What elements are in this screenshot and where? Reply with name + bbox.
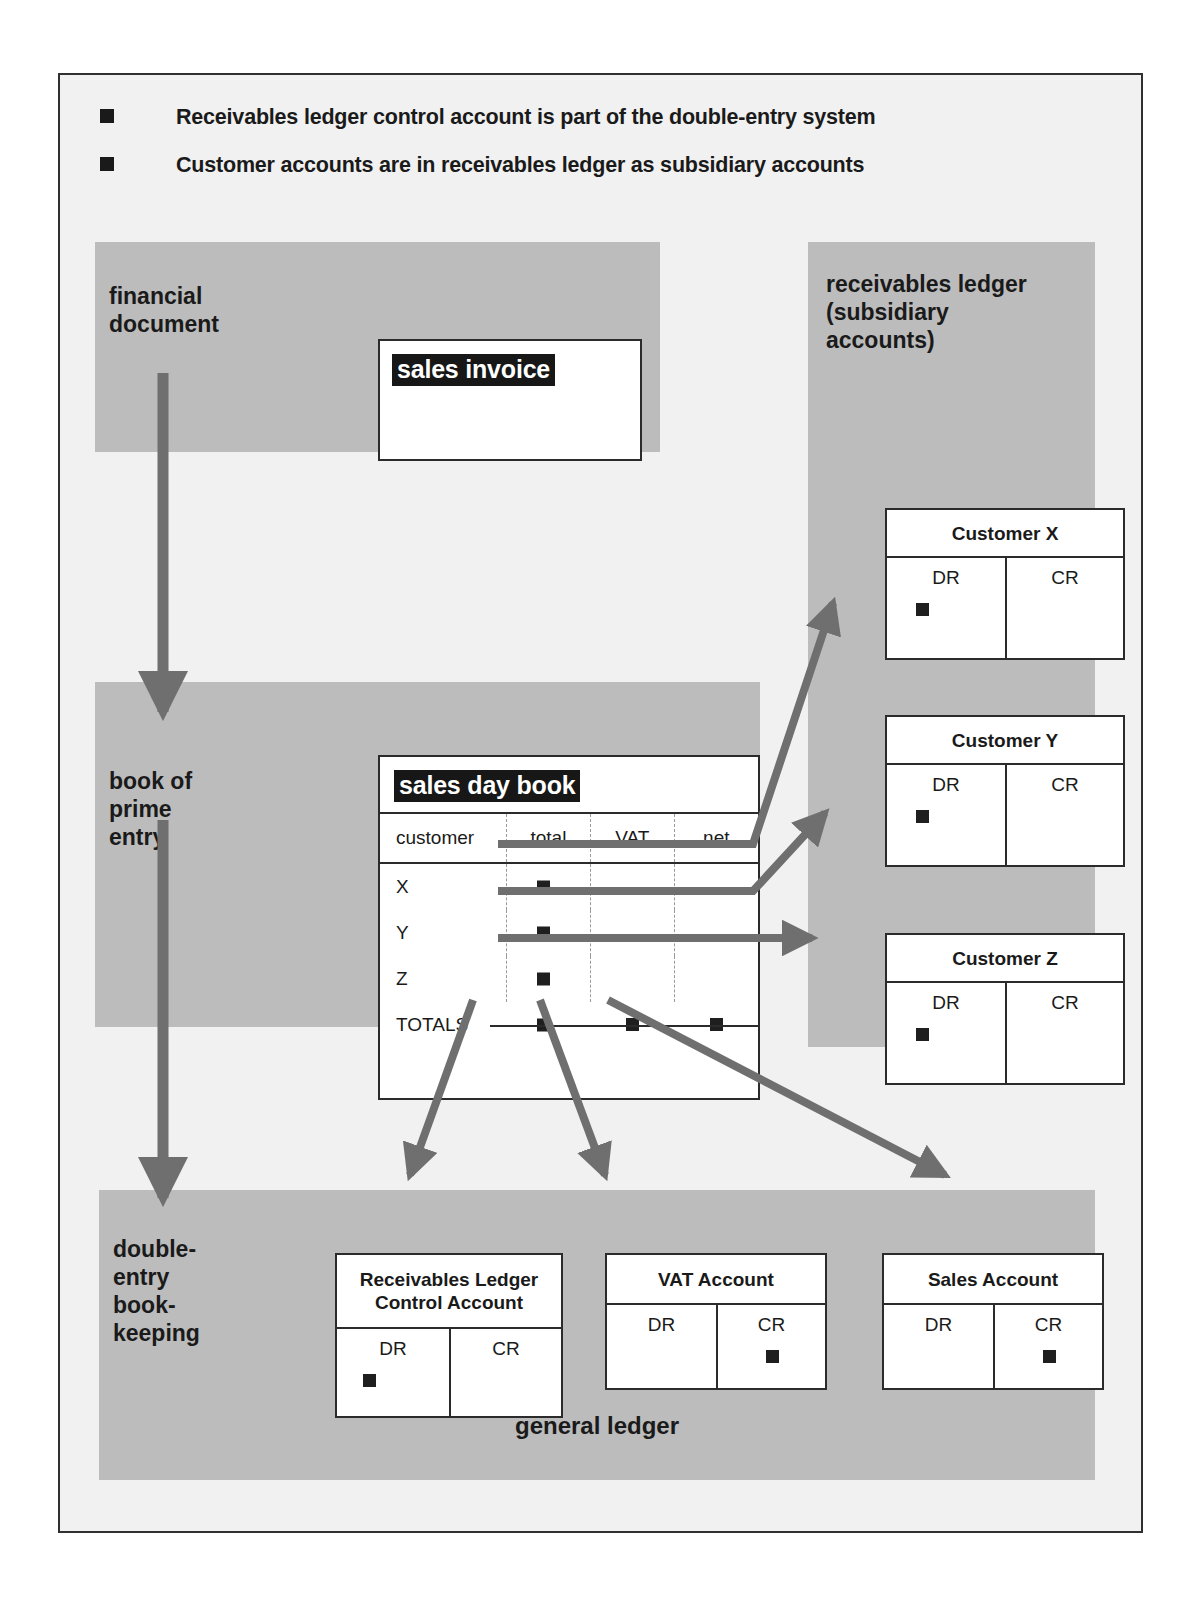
t-account-body: DR CR <box>887 558 1123 658</box>
square-bullet-icon <box>100 109 114 123</box>
cell-total-y <box>507 910 591 956</box>
cell-total-z <box>507 956 591 1002</box>
cell-net-z <box>674 956 758 1002</box>
band-receivables-ledger-label: receivables ledger (subsidiary accounts) <box>826 270 1027 354</box>
entry-mark-icon <box>766 1350 779 1363</box>
t-account-receivables-ledger-control: Receivables Ledger Control Account DR CR <box>335 1253 563 1418</box>
column-header-customer: customer <box>380 813 507 863</box>
t-account-body: DR CR <box>337 1329 561 1416</box>
t-account-cr-column: CR <box>716 1305 825 1388</box>
sales-invoice-document: sales invoice <box>378 339 642 461</box>
slide-frame: Receivables ledger control account is pa… <box>58 73 1143 1533</box>
t-account-vat: VAT Account DR CR <box>605 1253 827 1390</box>
sales-day-book-table: customer total VAT net X Y <box>380 812 758 1048</box>
t-account-customer-x-title: Customer X <box>887 510 1123 558</box>
t-account-dr-column: DR <box>337 1329 449 1416</box>
cr-label: CR <box>451 1338 561 1360</box>
general-ledger-footer-label: general ledger <box>99 1412 1095 1440</box>
table-row: Z <box>380 956 758 1002</box>
cell-customer-x: X <box>380 863 507 910</box>
t-account-dr-column: DR <box>887 983 1005 1083</box>
column-header-total: total <box>507 813 591 863</box>
t-account-customer-y-title: Customer Y <box>887 717 1123 765</box>
entry-mark-icon <box>1043 1350 1056 1363</box>
t-account-rlca-title: Receivables Ledger Control Account <box>337 1255 561 1329</box>
t-account-body: DR CR <box>887 765 1123 865</box>
cell-vat-y <box>590 910 674 956</box>
entry-mark-icon <box>916 1028 929 1041</box>
column-header-vat: VAT <box>590 813 674 863</box>
table-row: X <box>380 863 758 910</box>
t-account-cr-column: CR <box>449 1329 561 1416</box>
sales-day-book-title: sales day book <box>394 770 580 802</box>
t-account-customer-x: Customer X DR CR <box>885 508 1125 660</box>
entry-mark-icon <box>363 1374 376 1387</box>
band-financial-document-label: financial document <box>109 282 219 338</box>
bullet-item-1: Receivables ledger control account is pa… <box>100 102 1100 132</box>
column-header-net: net <box>674 813 758 863</box>
cr-label: CR <box>1007 992 1123 1014</box>
cr-label: CR <box>1007 774 1123 796</box>
bullet-list: Receivables ledger control account is pa… <box>100 102 1100 198</box>
bullet-item-2: Customer accounts are in receivables led… <box>100 150 1100 180</box>
cell-customer-y: Y <box>380 910 507 956</box>
table-row: Y <box>380 910 758 956</box>
t-account-customer-y: Customer Y DR CR <box>885 715 1125 867</box>
cell-vat-z <box>590 956 674 1002</box>
entry-mark-icon <box>916 810 929 823</box>
t-account-cr-column: CR <box>993 1305 1102 1388</box>
sales-invoice-title: sales invoice <box>392 354 555 386</box>
cr-label: CR <box>995 1314 1102 1336</box>
t-account-cr-column: CR <box>1005 983 1123 1083</box>
sales-day-book-document: sales day book customer total VAT net X <box>378 755 760 1100</box>
t-account-body: DR CR <box>607 1305 825 1388</box>
cell-net-x <box>674 863 758 910</box>
t-account-sales: Sales Account DR CR <box>882 1253 1104 1390</box>
t-account-body: DR CR <box>887 983 1123 1083</box>
cr-label: CR <box>1007 567 1123 589</box>
t-account-customer-z: Customer Z DR CR <box>885 933 1125 1085</box>
t-account-sales-title: Sales Account <box>884 1255 1102 1305</box>
cell-vat-x <box>590 863 674 910</box>
dr-label: DR <box>337 1338 449 1360</box>
t-account-dr-column: DR <box>607 1305 716 1388</box>
band-book-of-prime-entry-label: book of prime entry <box>109 767 192 851</box>
value-mark-icon <box>537 973 550 986</box>
cr-label: CR <box>718 1314 825 1336</box>
cell-net-y <box>674 910 758 956</box>
subtotal-rule <box>490 1025 758 1027</box>
dr-label: DR <box>607 1314 716 1336</box>
dr-label: DR <box>884 1314 993 1336</box>
cell-total-x <box>507 863 591 910</box>
dr-label: DR <box>887 567 1005 589</box>
t-account-customer-z-title: Customer Z <box>887 935 1123 983</box>
square-bullet-icon <box>100 157 114 171</box>
t-account-dr-column: DR <box>887 765 1005 865</box>
value-mark-icon <box>537 927 550 940</box>
band-double-entry-label: double- entry book- keeping <box>113 1235 200 1347</box>
dr-label: DR <box>887 992 1005 1014</box>
cell-customer-z: Z <box>380 956 507 1002</box>
dr-label: DR <box>887 774 1005 796</box>
t-account-dr-column: DR <box>887 558 1005 658</box>
t-account-vat-title: VAT Account <box>607 1255 825 1305</box>
entry-mark-icon <box>916 603 929 616</box>
bullet-item-1-label: Receivables ledger control account is pa… <box>176 102 875 132</box>
cell-totals-label: TOTALS <box>380 1002 507 1048</box>
table-header-row: customer total VAT net <box>380 813 758 863</box>
t-account-body: DR CR <box>884 1305 1102 1388</box>
t-account-dr-column: DR <box>884 1305 993 1388</box>
t-account-cr-column: CR <box>1005 765 1123 865</box>
value-mark-icon <box>537 881 550 894</box>
bullet-item-2-label: Customer accounts are in receivables led… <box>176 150 864 180</box>
t-account-cr-column: CR <box>1005 558 1123 658</box>
